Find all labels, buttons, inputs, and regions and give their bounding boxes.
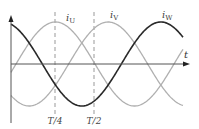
marker-label: T/4 xyxy=(48,116,63,126)
label-iU: iU xyxy=(66,12,75,25)
x-axis-arrow-icon xyxy=(183,62,190,67)
label-iV: iV xyxy=(110,9,119,22)
marker-label: T/2 xyxy=(87,116,102,126)
y-axis-arrow-icon xyxy=(9,15,14,22)
x-axis-label: t xyxy=(184,49,189,60)
axes: t xyxy=(9,15,191,123)
label-iW: iW xyxy=(162,9,173,22)
three-phase-current-diagram: T/4T/2 t iUiViW xyxy=(0,0,199,129)
